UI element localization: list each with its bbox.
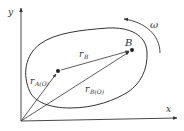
label-r-B: r B: [79, 49, 89, 60]
x-axis: [21, 118, 177, 121]
label-r-A-O: r A(O): [30, 76, 50, 87]
svg-text:B: B: [83, 53, 89, 60]
diagram-canvas: y x B ω r B r A(O) r B(O): [0, 0, 184, 131]
x-axis-label: x: [166, 104, 171, 114]
svg-text:A(O): A(O): [34, 80, 50, 87]
omega-label: ω: [150, 19, 158, 30]
point-A: [56, 69, 60, 73]
point-B: [130, 48, 134, 52]
point-B-label: B: [124, 37, 132, 48]
label-r-B-O: r B(O): [85, 84, 105, 95]
vector-r-B: [61, 51, 129, 70]
y-axis-label: y: [7, 7, 14, 17]
svg-text:B(O): B(O): [89, 88, 105, 95]
